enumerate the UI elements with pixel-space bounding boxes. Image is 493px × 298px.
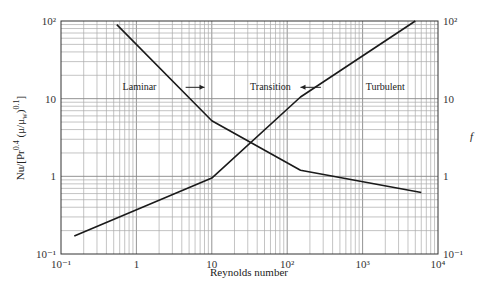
y-tick-label-right: 1 (443, 170, 449, 182)
y-axis-title-left: Nu/[Pr0.4 (μ/μw)0.1] (12, 96, 29, 180)
chart: 10⁻¹11010²10³10⁴10²10110⁻¹10²10110⁻¹ Lam… (0, 0, 493, 298)
friction-factor-curve (117, 25, 422, 193)
y-tick-label-left: 10 (45, 93, 57, 105)
y-axis-title-right: f (470, 130, 475, 142)
y-tick-label-left: 10² (42, 15, 57, 27)
arrow-right-icon (199, 85, 204, 90)
region-label-turbulent: Turbulent (366, 81, 405, 92)
region-label-transition: Transition (250, 81, 291, 92)
y-tick-label-left: 10⁻¹ (36, 248, 56, 260)
y-tick-label-right: 10² (443, 15, 458, 27)
x-tick-label: 10³ (355, 258, 370, 270)
y-tick-label-right: 10⁻¹ (443, 248, 463, 260)
plot-frame (61, 21, 438, 254)
y-tick-label-right: 10 (443, 93, 455, 105)
x-axis-title: Reynolds number (210, 266, 288, 278)
region-label-laminar: Laminar (123, 81, 158, 92)
grid-lines (61, 21, 438, 254)
nusselt-curve (74, 21, 415, 236)
x-tick-label: 1 (134, 258, 140, 270)
arrow-left-icon (300, 85, 305, 90)
y-tick-label-left: 1 (51, 170, 57, 182)
